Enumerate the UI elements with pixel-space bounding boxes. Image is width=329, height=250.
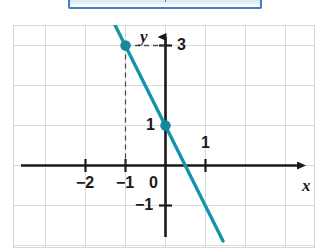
data-point-neg1-3	[120, 40, 130, 50]
highlight-bar-tick	[165, 0, 166, 2]
highlight-bar	[68, 0, 262, 9]
x-tick-label-neg1: −1	[116, 175, 134, 191]
y-axis-label: y	[140, 28, 148, 45]
origin-label: 0	[149, 175, 158, 191]
graph-canvas	[13, 25, 315, 248]
x-tick-label-1: 1	[201, 135, 210, 151]
x-axis-label: x	[302, 177, 311, 194]
y-tick-label-1: 1	[146, 117, 155, 133]
y-tick-label-3: 3	[177, 37, 186, 53]
data-point-0-1	[160, 120, 170, 130]
coordinate-graph: y x 3 1 −1 −2 −1 1 0	[13, 25, 315, 248]
y-tick-label-neg1: −1	[135, 197, 153, 213]
x-tick-label-neg2: −2	[76, 175, 94, 191]
graph-frame	[14, 26, 315, 248]
